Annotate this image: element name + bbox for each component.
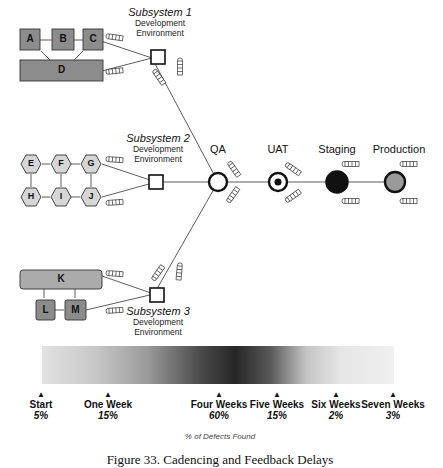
tick-one-week-pct: 15% <box>78 410 138 421</box>
tick-five-weeks: ▲ Five Weeks 15% <box>246 390 308 421</box>
component-label-j: J <box>81 191 101 201</box>
tick-one-week-label: One Week <box>78 399 138 410</box>
tick-four-weeks-label: Four Weeks <box>188 399 250 410</box>
dev-env-3-node <box>150 288 164 302</box>
batch-queue-icons <box>106 34 417 314</box>
stage-label-uat: UAT <box>258 143 298 155</box>
subsystem-1-title: Subsystem 1 <box>120 6 200 18</box>
tick-six-weeks-label: Six Weeks <box>307 399 365 410</box>
subsystem-2-label: Subsystem 2 Development Environment <box>118 132 198 164</box>
component-label-e: E <box>21 158 41 168</box>
subsystem-2-title: Subsystem 2 <box>118 132 198 144</box>
component-label-i: I <box>51 191 71 201</box>
tick-six-weeks-pct: 2% <box>307 410 365 421</box>
component-label-k: K <box>20 273 102 284</box>
component-label-a: A <box>20 33 40 44</box>
tick-start-pct: 5% <box>21 410 61 421</box>
tick-start-label: Start <box>21 399 61 410</box>
tick-arrow-icon: ▲ <box>358 390 428 399</box>
tick-five-weeks-pct: 15% <box>246 410 308 421</box>
stage-label-production: Production <box>365 143 433 155</box>
component-label-h: H <box>21 191 41 201</box>
component-label-g: G <box>81 158 101 168</box>
tick-four-weeks: ▲ Four Weeks 60% <box>188 390 250 421</box>
tick-arrow-icon: ▲ <box>78 390 138 399</box>
tick-four-weeks-pct: 60% <box>188 410 250 421</box>
component-label-l: L <box>36 304 55 315</box>
subsystem-2-env-line2: Environment <box>118 154 198 164</box>
dev-env-2-node <box>149 175 163 189</box>
uat-node-center <box>275 179 282 186</box>
figure-caption: Figure 33. Cadencing and Feedback Delays <box>60 452 380 468</box>
tick-arrow-icon: ▲ <box>246 390 308 399</box>
subsystem-3-env-line1: Development <box>116 317 200 327</box>
component-label-m: M <box>65 304 86 315</box>
tick-start: ▲ Start 5% <box>21 390 61 421</box>
tick-five-weeks-label: Five Weeks <box>246 399 308 410</box>
tick-one-week: ▲ One Week 15% <box>78 390 138 421</box>
tick-arrow-icon: ▲ <box>307 390 365 399</box>
production-node <box>385 172 405 192</box>
dev-env-1-node <box>151 50 165 64</box>
qa-node <box>209 173 227 191</box>
tick-seven-weeks-label: Seven Weeks <box>358 399 428 410</box>
subsystem-3-label: Subsystem 3 Development Environment <box>116 305 200 337</box>
component-label-c: C <box>83 33 103 44</box>
subsystem-3-title: Subsystem 3 <box>116 305 200 317</box>
tick-arrow-icon: ▲ <box>188 390 250 399</box>
subsystem-1-env-line1: Development <box>120 18 200 28</box>
subsystem-2-env-line1: Development <box>118 144 198 154</box>
staging-node <box>326 171 348 193</box>
tick-six-weeks: ▲ Six Weeks 2% <box>307 390 365 421</box>
component-label-f: F <box>51 158 71 168</box>
stage-label-staging: Staging <box>312 143 362 155</box>
subsystem-1-env-line2: Environment <box>120 28 200 38</box>
tick-seven-weeks: ▲ Seven Weeks 3% <box>358 390 428 421</box>
component-label-d: D <box>20 64 103 75</box>
axis-title: % of Defects Found <box>120 432 320 441</box>
subsystem-1-label: Subsystem 1 Development Environment <box>120 6 200 38</box>
tick-arrow-icon: ▲ <box>21 390 61 399</box>
component-label-b: B <box>52 33 74 44</box>
stage-label-qa: QA <box>198 143 238 155</box>
subsystem-3-env-line2: Environment <box>116 327 200 337</box>
defect-gradient-bar <box>42 346 394 384</box>
tick-seven-weeks-pct: 3% <box>358 410 428 421</box>
